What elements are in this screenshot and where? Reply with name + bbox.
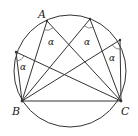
- angle-arc-A: [44, 28, 53, 31]
- angle-label-P4: α: [20, 62, 26, 72]
- angle-label-P3: α: [109, 53, 115, 63]
- angle-arc-P3: [112, 45, 120, 49]
- label-C: C: [121, 105, 130, 118]
- angle-label-P2: α: [84, 37, 90, 47]
- chords: [16, 19, 121, 101]
- angle-label-A: α: [48, 37, 54, 47]
- chord-P3B: [22, 40, 120, 101]
- point-B: [21, 100, 24, 103]
- chord-P3C: [120, 40, 121, 101]
- point-P4: [15, 51, 17, 53]
- point-A: [46, 20, 48, 22]
- label-B: B: [11, 105, 20, 118]
- point-P3: [119, 39, 121, 41]
- angle-arc-P4: [17, 56, 24, 61]
- inscribed-angle-diagram: A B C α α α α: [0, 0, 138, 136]
- point-C: [120, 100, 123, 103]
- label-A: A: [37, 8, 46, 21]
- angle-arcs: [17, 26, 120, 61]
- angle-arc-P2: [84, 26, 93, 28]
- point-P2: [89, 18, 91, 20]
